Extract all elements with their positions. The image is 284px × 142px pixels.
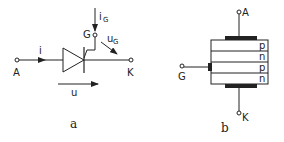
figure-b-caption: b <box>221 121 229 135</box>
gate-voltage-subscript: G <box>113 38 118 46</box>
current-arrow-icon <box>38 57 46 63</box>
gate-current-subscript: G <box>103 16 108 24</box>
anode-label: A <box>13 67 20 78</box>
figure-a-thyristor-symbol: A K G i i G u G u a <box>13 8 134 131</box>
gate-contact <box>208 63 212 71</box>
cathode-label: K <box>127 67 134 78</box>
gate-label-b: G <box>178 71 186 82</box>
anode-contact <box>225 36 257 40</box>
figure-b-thyristor-structure: p n p n G A K b <box>178 7 268 135</box>
current-label: i <box>39 45 42 56</box>
diode-triangle-icon <box>63 48 84 72</box>
layer-label-p1: p <box>259 40 265 51</box>
thyristor-diagram: A K G i i G u G u a p n p n G A K <box>0 0 284 142</box>
cathode-label-b: K <box>242 112 249 123</box>
voltage-label: u <box>71 87 77 98</box>
gate-terminal <box>93 33 97 37</box>
layer-label-n1: n <box>259 51 265 62</box>
gate-label: G <box>83 29 91 40</box>
cathode-terminal <box>129 58 133 62</box>
anode-terminal <box>15 58 19 62</box>
gate-lead <box>84 37 95 58</box>
anode-label-b: A <box>242 7 249 18</box>
layer-label-p2: p <box>259 62 265 73</box>
figure-a-caption: a <box>70 117 77 131</box>
anode-terminal-b <box>237 10 241 14</box>
cathode-contact <box>225 84 257 88</box>
gate-terminal-b <box>180 64 184 68</box>
cathode-terminal-b <box>237 111 241 115</box>
gate-current-label: i <box>99 11 102 22</box>
layer-label-n2: n <box>259 73 265 84</box>
